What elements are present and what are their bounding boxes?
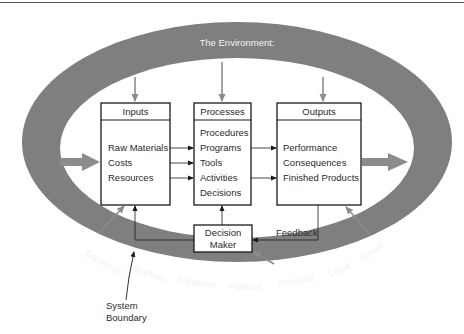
feedback-label: Feedback bbox=[276, 227, 318, 238]
factor-social: Social bbox=[357, 239, 384, 264]
factor-markets: Markets, bbox=[132, 263, 170, 286]
inputs-item: Resources bbox=[108, 172, 154, 183]
factor-suppliers: Suppliers, bbox=[176, 273, 220, 291]
output-flow-arrow bbox=[362, 153, 408, 171]
processes-item: Programs bbox=[200, 142, 241, 153]
decision-maker-line1: Decision bbox=[205, 227, 241, 238]
inputs-title: Inputs bbox=[123, 106, 149, 117]
input-flow-arrow bbox=[60, 153, 100, 171]
system-boundary-pointer bbox=[126, 252, 134, 300]
factor-economic: Economic, bbox=[83, 247, 127, 279]
factor-legal: Legal, bbox=[327, 259, 355, 279]
inputs-item: Costs bbox=[108, 157, 133, 168]
processes-item: Tools bbox=[200, 157, 222, 168]
outputs-item: Finished Products bbox=[283, 172, 359, 183]
system-boundary-line2: Boundary bbox=[106, 312, 147, 323]
inputs-box: Inputs Raw Materials Costs Resources bbox=[101, 103, 170, 205]
processes-item: Decisions bbox=[200, 187, 241, 198]
decision-maker-box: Decision Maker bbox=[194, 225, 252, 252]
processes-title: Processes bbox=[200, 106, 245, 117]
processes-item: Procedures bbox=[200, 127, 249, 138]
outputs-item: Performance bbox=[283, 142, 337, 153]
system-boundary-line1: System bbox=[106, 300, 138, 311]
factor-physical: Physical, bbox=[277, 272, 316, 289]
processes-item: Activities bbox=[200, 172, 238, 183]
system-diagram: The Environment: Inputs Raw Materials Co… bbox=[0, 0, 464, 334]
outputs-box: Outputs Performance Consequences Finishe… bbox=[277, 103, 361, 205]
decision-maker-line2: Maker bbox=[210, 239, 236, 250]
outputs-title: Outputs bbox=[302, 106, 336, 117]
outputs-item: Consequences bbox=[283, 157, 347, 168]
processes-box: Processes Procedures Programs Tools Acti… bbox=[194, 103, 251, 205]
inputs-item: Raw Materials bbox=[108, 142, 168, 153]
factor-political: Political, bbox=[229, 281, 264, 292]
environment-title: The Environment: bbox=[200, 37, 275, 48]
